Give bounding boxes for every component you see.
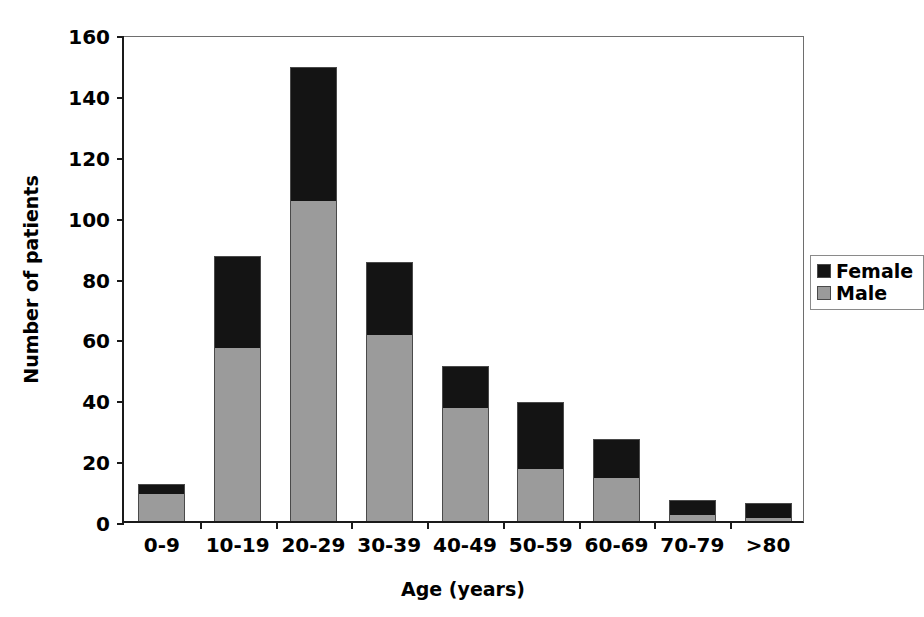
bar-segment-male xyxy=(442,408,489,521)
bar-segment-female xyxy=(517,402,564,469)
legend-item-male: Male xyxy=(817,282,913,304)
legend-label-male: Male xyxy=(836,284,887,303)
bar-segment-female xyxy=(745,503,792,518)
y-axis-tick-label: 160 xyxy=(68,27,117,47)
bar-segment-female xyxy=(290,67,337,201)
y-axis-tick-label: 140 xyxy=(68,88,117,108)
bar-1019 xyxy=(214,256,261,521)
bar-segment-male xyxy=(669,515,716,521)
bar-segment-male xyxy=(517,469,564,521)
bar-segment-female xyxy=(669,500,716,515)
y-axis-title: Number of patients xyxy=(20,36,42,523)
x-axis-tick-label: 40-49 xyxy=(433,535,497,555)
bar-segment-male xyxy=(366,335,413,521)
x-axis-tick-label: 30-39 xyxy=(357,535,421,555)
bar-segment-male xyxy=(214,348,261,521)
x-axis-tick-mark xyxy=(503,521,505,529)
bar-segment-female xyxy=(366,262,413,335)
y-axis-tick-label: 40 xyxy=(82,392,117,412)
x-axis-tick-label: 70-79 xyxy=(660,535,724,555)
y-axis-tick: 160 xyxy=(68,27,124,47)
bar-80 xyxy=(745,503,792,521)
y-axis-tick-label: 0 xyxy=(96,514,117,534)
y-axis-tick: 60 xyxy=(82,331,124,351)
y-axis-tick-mark xyxy=(117,158,124,160)
y-axis-tick-mark xyxy=(117,462,124,464)
y-axis-tick-label: 100 xyxy=(68,210,117,230)
y-axis-tick-mark xyxy=(117,36,124,38)
bar-7079 xyxy=(669,500,716,521)
bar-5059 xyxy=(517,402,564,521)
y-axis-tick-mark xyxy=(117,219,124,221)
bar-segment-female xyxy=(442,366,489,409)
plot-area: 020406080100120140160 0-910-1920-2930-39… xyxy=(122,36,804,523)
bar-segment-female xyxy=(138,484,185,493)
y-axis-tick: 100 xyxy=(68,210,124,230)
bar-segment-female xyxy=(593,439,640,479)
x-axis-tick-mark xyxy=(579,521,581,529)
bar-segment-male xyxy=(138,494,185,521)
x-axis-tick-label: 10-19 xyxy=(206,535,270,555)
bar-6069 xyxy=(593,439,640,521)
x-axis-tick-label: 50-59 xyxy=(509,535,573,555)
x-axis-tick-mark xyxy=(654,521,656,529)
y-axis-tick: 20 xyxy=(82,453,124,473)
chart-legend: Female Male xyxy=(810,255,924,310)
y-axis-tick-mark xyxy=(117,523,124,525)
bar-2029 xyxy=(290,67,337,521)
bar-09 xyxy=(138,484,185,521)
x-axis-tick-mark xyxy=(351,521,353,529)
legend-swatch-female-icon xyxy=(817,264,831,278)
y-axis-tick-label: 60 xyxy=(82,331,117,351)
bar-segment-male xyxy=(745,518,792,521)
bar-segment-male xyxy=(593,478,640,521)
y-axis-tick: 80 xyxy=(82,271,124,291)
legend-swatch-male-icon xyxy=(817,286,831,300)
x-axis-tick-mark xyxy=(730,521,732,529)
y-axis-tick: 120 xyxy=(68,149,124,169)
y-axis-tick-label: 20 xyxy=(82,453,117,473)
x-axis-tick-mark xyxy=(427,521,429,529)
y-axis-tick-label: 120 xyxy=(68,149,117,169)
bar-4049 xyxy=(442,366,489,521)
x-axis-tick-label: >80 xyxy=(746,535,791,555)
y-axis-tick-mark xyxy=(117,340,124,342)
y-axis-tick-mark xyxy=(117,280,124,282)
x-axis-tick-label: 60-69 xyxy=(585,535,649,555)
legend-label-female: Female xyxy=(836,262,913,281)
legend-item-female: Female xyxy=(817,260,913,282)
x-axis-tick-mark xyxy=(276,521,278,529)
y-axis-tick: 0 xyxy=(96,514,124,534)
y-axis-tick-label: 80 xyxy=(82,271,117,291)
bar-3039 xyxy=(366,262,413,521)
y-axis-tick-mark xyxy=(117,401,124,403)
x-axis-tick-mark xyxy=(200,521,202,529)
x-axis-title: Age (years) xyxy=(122,578,804,600)
y-axis-tick: 140 xyxy=(68,88,124,108)
bar-segment-male xyxy=(290,201,337,521)
x-axis-tick-label: 20-29 xyxy=(281,535,345,555)
y-axis-tick: 40 xyxy=(82,392,124,412)
y-axis-tick-mark xyxy=(117,97,124,99)
bar-segment-female xyxy=(214,256,261,347)
x-axis-tick-label: 0-9 xyxy=(144,535,180,555)
